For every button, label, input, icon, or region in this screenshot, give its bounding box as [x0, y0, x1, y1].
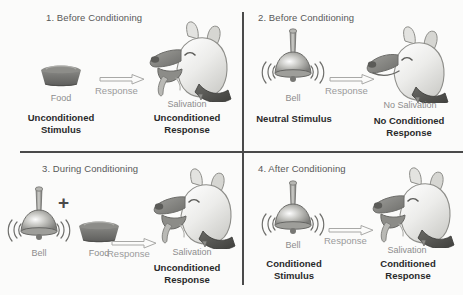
panel-2-response-label-line2: Response — [386, 127, 431, 138]
panel-4-title: 4. After Conditioning — [258, 163, 346, 174]
panel-4-stimulus-caption: Bell — [268, 240, 318, 250]
panel-4-response-label-line1: Conditioned — [380, 258, 435, 269]
panel-2-stimulus-label-line1: Neutral Stimulus — [256, 113, 332, 124]
panel-1-stimulus-caption: Food — [32, 93, 90, 103]
dog-head-salivating-icon-3 — [145, 167, 240, 253]
panel-3-combiner: + — [58, 193, 69, 212]
panel-2-response-label: No Conditioned Response — [354, 115, 463, 138]
panel-2-response-label-line1: No Conditioned — [374, 115, 445, 126]
panel-4-response-label-line2: Response — [385, 270, 430, 281]
conditioning-diagram: 1. Before Conditioning Food Unconditio — [0, 0, 463, 295]
panel-4-response-caption: Salivation — [370, 245, 444, 255]
panel-3-response-label-line1: Unconditioned — [154, 262, 221, 273]
panel-3-response-label: Unconditioned Response — [132, 262, 242, 285]
panel-3-arrow-label: Response — [107, 248, 150, 259]
panel-3-title: 3. During Conditioning — [42, 163, 138, 174]
panel-1-response-caption: Salivation — [150, 99, 224, 109]
panel-1-response-label: Unconditioned Response — [132, 112, 242, 135]
bell-icon-4 — [260, 180, 326, 246]
panel-2-response-caption: No Salivation — [361, 100, 459, 110]
panel-4-stimulus-label: Conditioned Stimulus — [248, 258, 340, 281]
panel-1-arrow-label: Response — [95, 85, 138, 96]
panel-2-title: 2. Before Conditioning — [258, 12, 354, 23]
dog-head-not-salivating-icon-2 — [357, 23, 453, 107]
panel-4-stimulus-label-line2: Stimulus — [274, 270, 314, 281]
panel-2-stimulus-caption: Bell — [268, 93, 318, 103]
panel-4-response-label: Conditioned Response — [354, 258, 462, 281]
panel-before-conditioning-2: 2. Before Conditioning — [244, 0, 463, 151]
panel-1-stimulus-label: Unconditioned Stimulus — [11, 112, 111, 135]
panel-3-response-label-line2: Response — [164, 274, 209, 285]
panel-1-response-label-line1: Unconditioned — [154, 112, 221, 123]
panel-1-stimulus-label-line1: Unconditioned — [28, 112, 95, 123]
panel-1-response-label-line2: Response — [164, 124, 209, 135]
panel-during-conditioning-3: 3. During Conditioning — [0, 153, 242, 295]
panel-3-stimulus-caption-a: Bell — [14, 248, 64, 258]
panel-1-stimulus-label-line2: Stimulus — [41, 124, 81, 135]
dog-head-salivating-icon-4 — [364, 166, 459, 252]
panel-before-conditioning-1: 1. Before Conditioning Food Unconditio — [0, 0, 242, 151]
dog-head-salivating-icon-1 — [141, 20, 236, 106]
panel-2-stimulus-label: Neutral Stimulus — [248, 113, 340, 125]
food-bowl-icon — [37, 62, 85, 92]
panel-4-arrow-label: Response — [324, 235, 367, 246]
panel-after-conditioning-4: 4. After Conditioning — [244, 153, 463, 295]
panel-3-response-caption: Salivation — [155, 247, 229, 257]
panel-4-stimulus-label-line1: Conditioned — [266, 258, 321, 269]
bell-icon-2 — [260, 28, 326, 94]
panel-1-title: 1. Before Conditioning — [46, 12, 142, 23]
